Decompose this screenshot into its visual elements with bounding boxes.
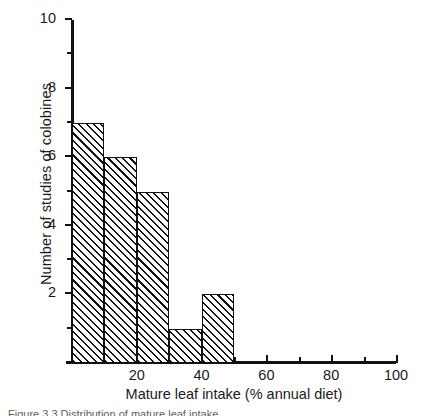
x-tick-major: 100 — [396, 355, 398, 363]
histogram-bar — [137, 192, 169, 364]
x-tick-label: 80 — [323, 367, 339, 383]
histogram-bar — [202, 294, 234, 363]
x-tick-label: 20 — [129, 367, 145, 383]
x-tick-label: 40 — [194, 367, 210, 383]
y-tick-major: 10 — [65, 18, 72, 20]
y-tick-label: 8 — [48, 79, 56, 95]
histogram-figure: Number of studies of colobines 246810 20… — [0, 0, 424, 416]
x-tick-minor — [234, 357, 236, 363]
y-tick-major: 8 — [65, 87, 72, 89]
x-tick-minor — [299, 357, 301, 363]
x-tick-major: 80 — [331, 355, 333, 363]
y-tick-major: 4 — [65, 224, 72, 226]
y-tick-minor — [67, 52, 72, 54]
y-tick-label: 2 — [48, 284, 56, 300]
figure-caption: Figure 3.3 Distribution of mature leaf i… — [8, 408, 218, 416]
x-tick-minor — [364, 357, 366, 363]
y-tick-label: 6 — [48, 147, 56, 163]
x-tick-major: 60 — [266, 355, 268, 363]
y-tick-label: 4 — [48, 216, 56, 232]
histogram-bar — [169, 329, 201, 363]
y-tick-major: 6 — [65, 155, 72, 157]
y-tick-label: 10 — [40, 10, 56, 26]
y-tick-major: 2 — [65, 292, 72, 294]
histogram-bar — [104, 157, 136, 363]
plot-area: 246810 20406080100 — [72, 20, 396, 363]
x-tick-label: 60 — [258, 367, 274, 383]
x-tick-label: 100 — [384, 367, 408, 383]
x-axis-title: Mature leaf intake (% annual diet) — [72, 386, 396, 402]
histogram-bar — [72, 123, 104, 363]
